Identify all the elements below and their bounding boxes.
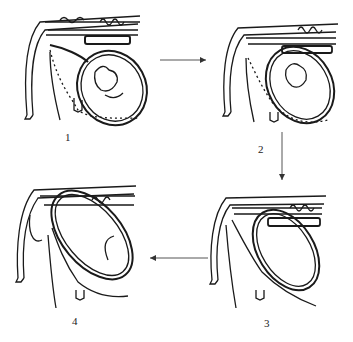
panel-2-illustration [223,24,348,136]
panel-4-label: 4 [72,315,78,327]
panel-3-illustration [210,196,333,308]
panel-1-illustration [25,16,160,138]
panel-3-label: 3 [264,317,270,329]
panel-2-label: 2 [258,143,264,155]
panel-1-label: 1 [65,131,71,143]
panel-4-illustration [16,176,148,308]
diagram-canvas [0,0,353,342]
